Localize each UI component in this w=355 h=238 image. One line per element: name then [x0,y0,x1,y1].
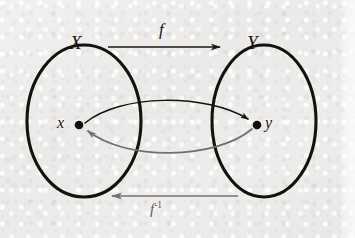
inverse-map-label-exponent: -1 [154,200,162,210]
element-dot-y [253,121,262,130]
set-label-x: X [70,32,82,54]
set-mapping-diagram [0,0,355,238]
inverse-element-arc [88,129,252,153]
element-dot-x [75,121,84,130]
forward-element-arc [85,100,248,123]
set-label-y: Y [247,32,258,54]
inverse-map-label: f-1 [150,200,162,218]
set-oval-codomain-y [212,45,316,197]
element-label-y: y [265,114,272,132]
set-oval-domain-x [27,45,141,197]
figure-canvas: X Y x y f f-1 [0,0,355,238]
element-label-x: x [57,114,64,132]
forward-map-label: f [159,20,164,40]
